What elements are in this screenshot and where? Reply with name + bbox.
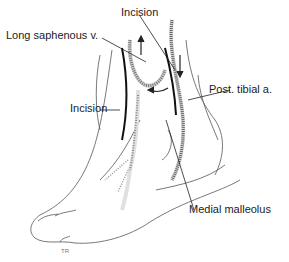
label-incision-left: Incision [70, 102, 107, 114]
long-saphenous-vein [105, 40, 165, 210]
label-medial-malleolus: Medial malleolus [189, 203, 271, 215]
label-incision-top: Incision [121, 6, 158, 18]
diagram-figure: TR Incision Long saphenous v. Incision P… [0, 0, 289, 262]
label-posterior-tibial-artery: Post. tibial a. [209, 83, 272, 95]
label-long-saphenous-vein: Long saphenous v. [6, 29, 98, 41]
artist-signature: TR [61, 248, 70, 254]
leader-lines [100, 16, 230, 210]
